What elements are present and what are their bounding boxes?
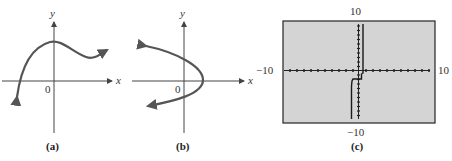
y-axis-label: y	[179, 7, 185, 19]
curve	[17, 42, 107, 97]
xmax-label: 10	[438, 64, 450, 76]
origin-label: 0	[45, 83, 51, 95]
x-axis-label: x	[247, 74, 253, 86]
caption-c: (c)	[351, 140, 364, 153]
origin-label: 0	[175, 83, 181, 95]
x-axis-label: x	[115, 74, 121, 86]
panel-b: x y 0 (b)	[132, 7, 253, 153]
panel-c: 10 −10 −10 10 (c)	[256, 5, 450, 153]
caption-a: (a)	[46, 140, 59, 153]
ymin-label: −10	[347, 126, 365, 138]
ymax-label: 10	[350, 5, 362, 17]
figure: x y 0 (a) x y 0 (b)	[0, 0, 452, 161]
caption-b: (b)	[176, 140, 190, 153]
panel-a: x y 0 (a)	[2, 7, 121, 153]
y-axis-label: y	[49, 7, 55, 19]
curve	[146, 46, 203, 106]
xmin-label: −10	[256, 64, 274, 76]
